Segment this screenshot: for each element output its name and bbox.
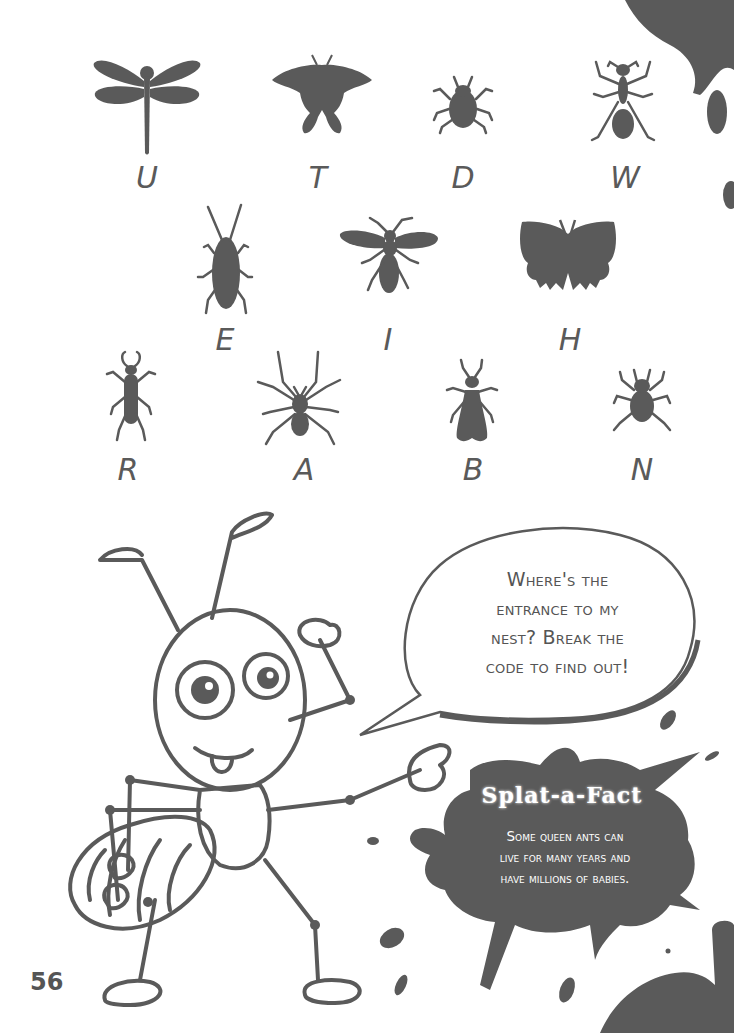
fact-text: Some queen ants can live for many years … [440,826,690,889]
fact-line: Some queen ants can [440,826,690,847]
page-number: 56 [30,968,63,996]
fact-line: have millions of babies. [440,868,690,889]
fact-line: live for many years and [440,847,690,868]
splat-a-fact-title: Splat-a-Fact [462,782,662,808]
